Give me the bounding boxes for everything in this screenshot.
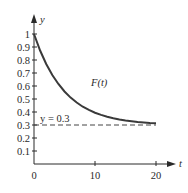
x-axis-label: t [179, 158, 183, 169]
asymptote-label: y = 0.3 [40, 113, 70, 124]
x-tick-label: 10 [90, 170, 101, 181]
curve-label: F(t) [90, 77, 108, 89]
x-axis-arrow-icon [167, 161, 176, 167]
chart: y t 0.1 0.2 0.3 0.4 0.5 0.6 0.7 0.8 0.9 … [0, 0, 188, 193]
y-axis-arrow-icon [31, 14, 37, 23]
y-tick-label: 0.4 [17, 107, 31, 118]
y-tick-label: 0.5 [17, 94, 30, 105]
y-tick-label: 0.3 [17, 120, 30, 131]
y-tick-label: 0.7 [17, 68, 30, 79]
x-tick-labels: 0 10 20 [31, 170, 161, 181]
y-tick-labels: 0.1 0.2 0.3 0.4 0.5 0.6 0.7 0.8 0.9 1 [17, 29, 31, 157]
y-tick-label: 1 [25, 29, 30, 40]
y-tick-label: 0.2 [17, 133, 30, 144]
y-tick-label: 0.9 [17, 42, 30, 53]
x-tick-label: 0 [31, 170, 36, 181]
y-axis-label: y [39, 14, 45, 25]
y-tick-label: 0.1 [17, 146, 30, 157]
y-tick-label: 0.6 [17, 81, 30, 92]
x-tick-label: 20 [151, 170, 162, 181]
y-tick-label: 0.8 [17, 55, 30, 66]
